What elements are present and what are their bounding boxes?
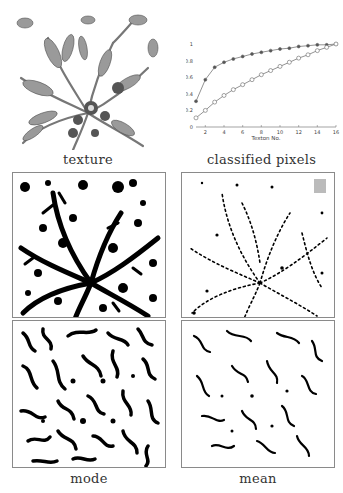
data-point	[213, 100, 217, 104]
binary-segmentation-thin-worms	[182, 321, 335, 468]
data-point	[307, 44, 310, 47]
data-point	[306, 53, 310, 57]
classified-pixels-chart: 2 4 6 8 10 12 14 16 0 0.2 0.4 0.6 0.8 1 …	[186, 30, 343, 150]
mode-top-image	[12, 172, 166, 318]
data-point	[250, 78, 254, 82]
data-point	[223, 61, 226, 64]
svg-text:16: 16	[333, 129, 339, 135]
data-point	[241, 83, 245, 87]
data-point	[288, 47, 291, 50]
line-chart: 2 4 6 8 10 12 14 16 0 0.2 0.4 0.6 0.8 1 …	[186, 30, 343, 150]
svg-text:12: 12	[296, 129, 302, 135]
caption-texture: texture	[13, 152, 163, 167]
data-point	[269, 69, 273, 73]
svg-text:4: 4	[222, 129, 225, 135]
svg-text:0.8: 0.8	[186, 58, 193, 64]
mean-top-image	[181, 172, 335, 318]
data-point	[213, 66, 216, 69]
data-point	[315, 49, 319, 53]
data-point	[287, 60, 291, 64]
data-point	[260, 51, 263, 54]
lace-texture-graphic	[13, 8, 163, 150]
data-point	[251, 52, 254, 55]
svg-text:2: 2	[204, 129, 207, 135]
binary-segmentation-worms	[13, 321, 166, 468]
data-point	[325, 45, 329, 49]
binary-segmentation-dense	[13, 173, 166, 318]
data-point	[269, 49, 272, 52]
svg-text:0.2: 0.2	[186, 107, 193, 113]
data-point	[259, 73, 263, 77]
data-point	[232, 57, 235, 60]
data-point	[297, 45, 300, 48]
data-point	[297, 56, 301, 60]
binary-segmentation-sparse	[182, 173, 335, 318]
data-point	[204, 78, 207, 81]
data-point	[194, 116, 198, 120]
svg-text:0.4: 0.4	[186, 91, 193, 97]
svg-text:1: 1	[190, 41, 193, 47]
caption-mode: mode	[12, 471, 166, 486]
mean-bottom-image	[181, 320, 335, 468]
data-point	[241, 55, 244, 58]
x-axis-label: Texton No.	[251, 135, 281, 141]
series-line-1	[196, 44, 336, 118]
data-point	[334, 42, 338, 46]
svg-text:0.6: 0.6	[186, 74, 193, 80]
data-point	[231, 88, 235, 92]
svg-text:14: 14	[314, 129, 320, 135]
caption-mean: mean	[181, 471, 335, 486]
data-point	[279, 47, 282, 50]
data-point	[195, 100, 198, 103]
texture-image	[13, 8, 163, 150]
caption-classified-pixels: classified pixels	[180, 152, 343, 167]
svg-text:6: 6	[241, 129, 244, 135]
data-point	[203, 108, 207, 112]
data-point	[316, 43, 319, 46]
data-point	[278, 64, 282, 68]
svg-text:0: 0	[190, 124, 193, 130]
data-point	[222, 93, 226, 97]
mode-bottom-image	[12, 320, 166, 468]
